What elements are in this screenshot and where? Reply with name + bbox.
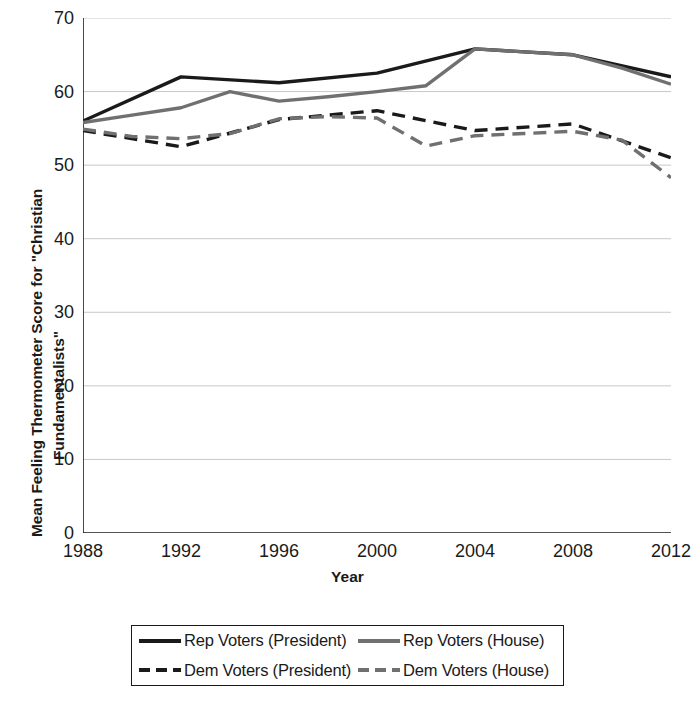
y-axis-tick-label: 20 xyxy=(30,377,74,395)
plot-svg xyxy=(83,18,671,533)
legend-item[interactable]: Rep Voters (House) xyxy=(351,626,563,656)
y-axis-tick-label: 10 xyxy=(30,450,74,468)
x-axis-tick-label: 2012 xyxy=(636,540,695,562)
x-axis-tick-label: 1996 xyxy=(244,540,314,562)
chart-figure: Mean Feeling Thermometer Score for "Chri… xyxy=(0,0,695,702)
legend-item[interactable]: Dem Voters (President) xyxy=(132,656,351,686)
plot-area xyxy=(83,18,671,533)
y-axis-tick-label: 70 xyxy=(30,9,74,27)
legend-item[interactable]: Dem Voters (House) xyxy=(351,656,563,686)
x-axis-tick-label: 2000 xyxy=(342,540,412,562)
legend-item-label: Rep Voters (House) xyxy=(403,631,544,650)
y-axis-tick-label: 30 xyxy=(30,303,74,321)
x-axis-tick-label: 2004 xyxy=(440,540,510,562)
legend-item[interactable]: Rep Voters (President) xyxy=(132,626,351,656)
x-axis-tick-label: 2008 xyxy=(538,540,608,562)
legend-line-swatch xyxy=(138,663,182,677)
legend-line-swatch xyxy=(357,634,401,648)
chart-legend: Rep Voters (President) Rep Voters (House… xyxy=(131,625,564,686)
x-axis-tick-label: 1992 xyxy=(146,540,216,562)
y-axis-tick-labels: 010203040506070 xyxy=(22,18,74,533)
legend-item-label: Dem Voters (House) xyxy=(403,661,549,680)
y-axis-tick-label: 40 xyxy=(30,230,74,248)
x-axis-tick-label: 1988 xyxy=(48,540,118,562)
legend-item-label: Dem Voters (President) xyxy=(184,661,351,680)
legend-line-swatch xyxy=(357,663,401,677)
x-axis-tick-labels: 1988199219962000200420082012 xyxy=(0,540,695,566)
legend-line-swatch xyxy=(138,634,182,648)
x-axis-title: Year xyxy=(0,568,695,586)
y-axis-tick-label: 50 xyxy=(30,156,74,174)
y-axis-tick-label: 60 xyxy=(30,83,74,101)
legend-item-label: Rep Voters (President) xyxy=(184,631,347,650)
